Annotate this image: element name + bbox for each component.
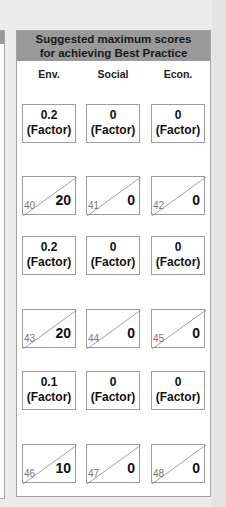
score-box-env[interactable]: 43 20 xyxy=(22,309,76,348)
panel-title: Suggested maximum scores for achieving B… xyxy=(17,31,210,61)
score-value: 0 xyxy=(192,192,200,208)
panel-title-line2: for achieving Best Practice xyxy=(17,46,210,60)
score-box-social[interactable]: 41 0 xyxy=(86,176,140,215)
factor-value: 0.2 xyxy=(23,240,75,255)
score-box-env[interactable]: 46 10 xyxy=(22,444,76,483)
score-number: 46 xyxy=(24,468,35,479)
best-practice-panel: Suggested maximum scores for achieving B… xyxy=(16,30,211,497)
factor-unit: (Factor) xyxy=(23,390,75,405)
factor-box-env[interactable]: 0.2 (Factor) xyxy=(22,104,76,143)
score-value: 10 xyxy=(55,460,71,476)
factor-value: 0 xyxy=(152,240,204,255)
factor-value: 0.1 xyxy=(23,375,75,390)
factor-unit: (Factor) xyxy=(23,123,75,138)
factor-box-social[interactable]: 0 (Factor) xyxy=(86,104,140,143)
score-value: 0 xyxy=(192,460,200,476)
left-panel-edge xyxy=(0,30,5,499)
score-number: 45 xyxy=(153,333,164,344)
factor-unit: (Factor) xyxy=(152,123,204,138)
score-box-econ[interactable]: 48 0 xyxy=(151,444,205,483)
column-header-econ: Econ. xyxy=(151,68,205,80)
score-value: 0 xyxy=(127,192,135,208)
score-box-env[interactable]: 40 20 xyxy=(22,176,76,215)
factor-value: 0 xyxy=(87,108,139,123)
score-value: 0 xyxy=(127,460,135,476)
factor-box-social[interactable]: 0 (Factor) xyxy=(86,371,140,410)
score-value: 0 xyxy=(127,325,135,341)
factor-unit: (Factor) xyxy=(87,390,139,405)
score-value: 0 xyxy=(192,325,200,341)
score-number: 42 xyxy=(153,200,164,211)
factor-box-env[interactable]: 0.1 (Factor) xyxy=(22,371,76,410)
score-value: 20 xyxy=(55,192,71,208)
factor-box-econ[interactable]: 0 (Factor) xyxy=(151,104,205,143)
panel-title-line1: Suggested maximum scores xyxy=(17,32,210,46)
factor-box-social[interactable]: 0 (Factor) xyxy=(86,236,140,275)
factor-unit: (Factor) xyxy=(152,255,204,270)
factor-value: 0 xyxy=(152,375,204,390)
right-margin xyxy=(212,0,226,507)
score-box-econ[interactable]: 42 0 xyxy=(151,176,205,215)
score-number: 48 xyxy=(153,468,164,479)
score-number: 40 xyxy=(24,200,35,211)
column-headers: Env. Social Econ. xyxy=(17,68,210,82)
factor-unit: (Factor) xyxy=(23,255,75,270)
factor-value: 0 xyxy=(152,108,204,123)
column-header-env: Env. xyxy=(22,68,76,80)
score-number: 41 xyxy=(88,200,99,211)
left-panel-header xyxy=(0,31,4,44)
factor-value: 0.2 xyxy=(23,108,75,123)
factor-value: 0 xyxy=(87,375,139,390)
score-box-social[interactable]: 47 0 xyxy=(86,444,140,483)
score-box-econ[interactable]: 45 0 xyxy=(151,309,205,348)
factor-box-env[interactable]: 0.2 (Factor) xyxy=(22,236,76,275)
factor-box-econ[interactable]: 0 (Factor) xyxy=(151,371,205,410)
score-number: 47 xyxy=(88,468,99,479)
score-number: 43 xyxy=(24,333,35,344)
factor-unit: (Factor) xyxy=(87,123,139,138)
score-value: 20 xyxy=(55,325,71,341)
score-number: 44 xyxy=(88,333,99,344)
score-box-social[interactable]: 44 0 xyxy=(86,309,140,348)
factor-value: 0 xyxy=(87,240,139,255)
factor-unit: (Factor) xyxy=(152,390,204,405)
factor-unit: (Factor) xyxy=(87,255,139,270)
column-header-social: Social xyxy=(86,68,140,80)
factor-box-econ[interactable]: 0 (Factor) xyxy=(151,236,205,275)
